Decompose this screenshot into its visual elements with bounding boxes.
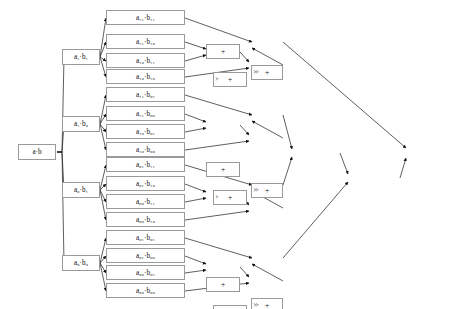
leaf-label: a₀₀·b₀₁ — [136, 269, 155, 277]
multiplication-tree-diagram: a·b a₁·b₁ a₁·b₀ a₀·b₁ a₀·b₀ a₁₁·b₁₁ a₁₁·… — [0, 0, 471, 309]
adder-symbol: + — [221, 165, 225, 174]
leaf-node[interactable]: a₁₁·b₁₀ — [106, 34, 185, 49]
leaf-label: a₁₁·b₀₁ — [136, 91, 155, 99]
leaf-label: a₀₀·b₀₀ — [136, 287, 155, 295]
leaf-node[interactable]: a₁₁·b₀₀ — [106, 106, 185, 121]
node-a0b1[interactable]: a₀·b₁ — [62, 182, 100, 198]
leaf-node[interactable]: a₁₀·b₁₁ — [106, 53, 185, 68]
leaf-label: a₀₁·b₁₁ — [136, 161, 155, 169]
leaf-label: a₁₁·b₁₀ — [136, 38, 155, 46]
leaf-node[interactable]: a₀₀·b₀₀ — [106, 283, 185, 298]
shift-marker: >> — [254, 188, 259, 193]
leaf-node[interactable]: a₁₁·b₁₁ — [106, 10, 185, 25]
leaf-label: a₀₁·b₀₀ — [136, 252, 155, 260]
leaf-label: a₁₀·b₀₀ — [136, 146, 155, 154]
leaf-node[interactable]: a₀₁·b₁₁ — [106, 157, 185, 172]
leaf-label: a₁₀·b₁₁ — [136, 57, 155, 65]
adder-inner-plain[interactable]: + — [206, 44, 240, 59]
shift-marker: > — [216, 195, 218, 200]
leaf-node[interactable]: a₁₀·b₀₁ — [106, 124, 185, 139]
leaf-node[interactable]: a₀₀·b₁₁ — [106, 194, 185, 209]
adder-symbol: + — [265, 301, 269, 309]
adder-inner-shift1[interactable]: > + — [213, 72, 247, 87]
adder-group-shift2[interactable]: >> + — [251, 65, 283, 80]
leaf-node[interactable]: a₀₁·b₀₀ — [106, 248, 185, 263]
leaf-node[interactable]: a₀₁·b₁₀ — [106, 176, 185, 191]
node-a1b0[interactable]: a₁·b₀ — [62, 116, 100, 132]
adder-symbol: + — [265, 68, 269, 77]
leaf-node[interactable]: a₁₀·b₀₀ — [106, 142, 185, 157]
adder-inner-shift1[interactable]: > + — [213, 305, 247, 309]
leaf-label: a₁₀·b₁₀ — [136, 73, 155, 81]
node-a1b0-label: a₁·b₀ — [74, 120, 88, 128]
leaf-node[interactable]: a₀₀·b₁₀ — [106, 212, 185, 227]
leaf-label: a₁₁·b₀₀ — [136, 110, 155, 118]
node-a0b0-label: a₀·b₀ — [74, 259, 88, 267]
node-a1b1-label: a₁·b₁ — [74, 53, 88, 61]
adder-symbol: + — [221, 280, 225, 289]
node-a0b0[interactable]: a₀·b₀ — [62, 255, 100, 271]
leaf-node[interactable]: a₁₁·b₀₁ — [106, 87, 185, 102]
leaf-node[interactable]: a₀₁·b₀₁ — [106, 230, 185, 245]
node-root-label: a·b — [32, 148, 41, 156]
node-root[interactable]: a·b — [18, 144, 56, 160]
leaf-label: a₁₁·b₁₁ — [136, 14, 155, 22]
node-a0b1-label: a₀·b₁ — [74, 186, 88, 194]
node-a1b1[interactable]: a₁·b₁ — [62, 49, 100, 65]
adder-inner-plain[interactable]: + — [206, 277, 240, 292]
adder-symbol: + — [265, 186, 269, 195]
shift-marker: >> — [254, 303, 259, 308]
leaf-node[interactable]: a₁₀·b₁₀ — [106, 69, 185, 84]
shift-marker: >> — [254, 70, 259, 75]
leaf-label: a₁₀·b₀₁ — [136, 128, 155, 136]
adder-symbol: + — [221, 47, 225, 56]
adder-symbol: + — [228, 75, 232, 84]
leaf-label: a₀₁·b₀₁ — [136, 234, 155, 242]
leaf-label: a₀₀·b₁₀ — [136, 216, 155, 224]
adder-inner-plain[interactable]: + — [206, 162, 240, 177]
shift-marker: > — [216, 77, 218, 82]
adder-symbol: + — [228, 193, 232, 202]
adder-group-shift2[interactable]: >> + — [251, 183, 283, 198]
leaf-node[interactable]: a₀₀·b₀₁ — [106, 265, 185, 280]
leaf-label: a₀₀·b₁₁ — [136, 198, 155, 206]
leaf-label: a₀₁·b₁₀ — [136, 180, 155, 188]
adder-group-shift2[interactable]: >> + — [251, 298, 283, 309]
adder-inner-shift1[interactable]: > + — [213, 190, 247, 205]
